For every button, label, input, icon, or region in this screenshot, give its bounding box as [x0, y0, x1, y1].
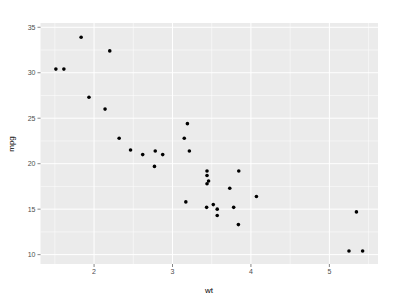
- data-point: [355, 210, 359, 214]
- data-point: [205, 169, 209, 173]
- data-point: [153, 165, 157, 169]
- data-point: [205, 182, 209, 186]
- y-tick-label: 15: [28, 206, 36, 213]
- data-point: [237, 169, 241, 173]
- x-tick-label: 5: [327, 268, 331, 275]
- data-point: [161, 153, 165, 157]
- data-point: [215, 207, 219, 211]
- data-point: [232, 206, 236, 210]
- data-point: [79, 35, 83, 39]
- x-tick-label: 2: [92, 268, 96, 275]
- y-tick-label: 10: [28, 251, 36, 258]
- data-point: [361, 249, 365, 253]
- data-point: [129, 148, 133, 152]
- data-point: [347, 249, 351, 253]
- x-axis-label: wt: [204, 286, 214, 295]
- data-point: [54, 67, 58, 71]
- y-tick-label: 25: [28, 115, 36, 122]
- y-tick-label: 30: [28, 69, 36, 76]
- x-tick-label: 3: [171, 268, 175, 275]
- data-point: [184, 200, 188, 204]
- data-point: [153, 149, 157, 153]
- data-point: [186, 122, 190, 126]
- data-point: [141, 153, 145, 157]
- y-tick-label: 20: [28, 160, 36, 167]
- data-point: [205, 206, 209, 210]
- data-point: [108, 49, 112, 53]
- data-point: [182, 136, 186, 140]
- data-point: [87, 96, 91, 100]
- data-point: [205, 174, 209, 178]
- data-point: [228, 186, 232, 190]
- data-point: [188, 149, 192, 153]
- data-point: [255, 195, 259, 199]
- data-point: [237, 223, 241, 227]
- data-point: [103, 107, 107, 111]
- x-tick-label: 4: [249, 268, 253, 275]
- y-axis-label: mpg: [7, 136, 16, 152]
- y-tick-label: 35: [28, 24, 36, 31]
- data-point: [211, 203, 215, 207]
- plot-panel: [41, 23, 379, 264]
- scatter-plot: 2345101520253035 wt mpg: [0, 0, 398, 300]
- data-point: [62, 67, 66, 71]
- data-point: [117, 136, 121, 140]
- data-point: [215, 214, 219, 218]
